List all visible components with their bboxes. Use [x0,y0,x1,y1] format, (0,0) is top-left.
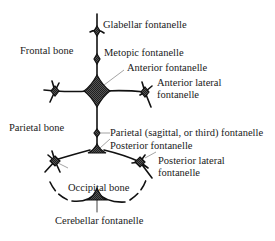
glabellar-fontanelle-shape [94,26,100,36]
anterior-fontanelle-shape [84,75,110,107]
fontanelle-diagram: Glabellar fontanelle Frontal bone Metopi… [0,0,275,241]
anterior-lateral-right-shape [141,87,149,97]
label-occipital-bone: Occipital bone [68,182,130,194]
label-anterior-lateral-fontanelle-line1: Anterior lateral [157,77,221,89]
label-cerebellar-fontanelle: Cerebellar fontanelle [55,215,143,227]
suture-drawing [0,0,275,241]
label-parietal-bone: Parietal bone [9,122,64,134]
parietal-fontanelle-shape [94,129,100,137]
label-anterior-fontanelle: Anterior fontanelle [127,62,207,74]
label-posterior-lateral-fontanelle-line1: Posterior lateral [158,155,225,167]
label-posterior-fontanelle: Posterior fontanelle [110,140,193,152]
anterior-lateral-left-shape [51,86,59,96]
label-metopic-fontanelle: Metopic fontanelle [104,47,184,59]
label-glabellar-fontanelle: Glabellar fontanelle [103,19,187,31]
label-frontal-bone: Frontal bone [20,45,73,57]
label-posterior-lateral-fontanelle-line2: fontanelle [158,167,200,179]
label-anterior-lateral-fontanelle-line2: fontanelle [157,89,199,101]
metopic-fontanelle-shape [94,54,100,64]
label-parietal-fontanelle: Parietal (sagittal, or third) fontanelle [110,127,263,139]
